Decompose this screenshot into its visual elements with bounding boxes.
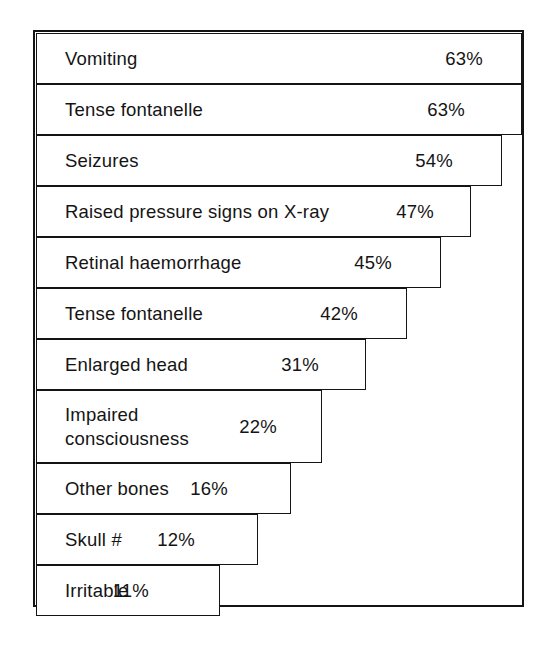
bar-value-label: 63% — [445, 48, 483, 70]
bar-row[interactable]: Tense fontanelle42% — [36, 288, 407, 339]
bar-label: Retinal haemorrhage — [65, 252, 242, 274]
bar-label: Vomiting — [65, 48, 138, 70]
bar-row[interactable]: Raised pressure signs on X-ray47% — [36, 186, 471, 237]
bar-value-label: 42% — [320, 303, 358, 325]
bar-label: Raised pressure signs on X-ray — [65, 201, 329, 223]
bar-label: Tense fontanelle — [65, 99, 203, 121]
bar-value-label: 31% — [281, 354, 319, 376]
stepped-bar-chart: Vomiting63%Tense fontanelle63%Seizures54… — [0, 0, 552, 650]
bar-row[interactable]: Seizures54% — [36, 135, 502, 186]
bar-label: Other bones — [65, 478, 169, 500]
bar-value-label: 54% — [415, 150, 453, 172]
bar-value-label: 11% — [113, 580, 149, 602]
bar-value-label: 45% — [354, 252, 392, 274]
bar-row[interactable]: Tense fontanelle63% — [36, 84, 522, 135]
bar-row[interactable]: Other bones16% — [36, 463, 291, 514]
bar-label: Seizures — [65, 150, 139, 172]
bar-value-label: 16% — [190, 478, 228, 500]
bar-row[interactable]: Impaired consciousness22% — [36, 390, 322, 463]
bar-label: Tense fontanelle — [65, 303, 203, 325]
bar-value-label: 12% — [157, 529, 195, 551]
bar-label: Skull # — [65, 529, 122, 551]
bar-row[interactable]: Retinal haemorrhage45% — [36, 237, 441, 288]
bar-row[interactable]: Skull #12% — [36, 514, 258, 565]
bar-value-label: 22% — [239, 416, 277, 438]
bar-label: Impaired consciousness — [65, 403, 189, 449]
bar-row[interactable]: Vomiting63% — [36, 33, 522, 84]
bar-row[interactable]: Enlarged head31% — [36, 339, 366, 390]
bar-value-label: 47% — [396, 201, 434, 223]
bar-value-label: 63% — [427, 99, 465, 121]
chart-bars-container: Vomiting63%Tense fontanelle63%Seizures54… — [33, 30, 524, 607]
bar-label: Enlarged head — [65, 354, 188, 376]
bar-row[interactable]: Irritable11% — [36, 565, 220, 616]
